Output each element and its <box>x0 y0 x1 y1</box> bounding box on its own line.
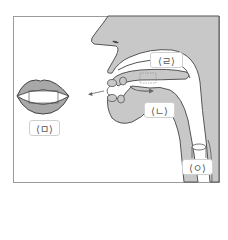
label-mieum: ⟨ㅁ⟩ <box>29 120 60 136</box>
lower-tooth-front <box>108 95 117 102</box>
larynx-top <box>192 144 206 150</box>
upper-tooth-front <box>108 80 117 87</box>
label-nieun: ⟨ㄴ⟩ <box>144 102 175 118</box>
upper-tooth-back <box>120 77 127 85</box>
lower-tooth-back <box>118 95 125 103</box>
label-rieul: ⟨ㄹ⟩ <box>150 52 183 68</box>
label-ieung: ⟨ㅇ⟩ <box>182 159 213 175</box>
